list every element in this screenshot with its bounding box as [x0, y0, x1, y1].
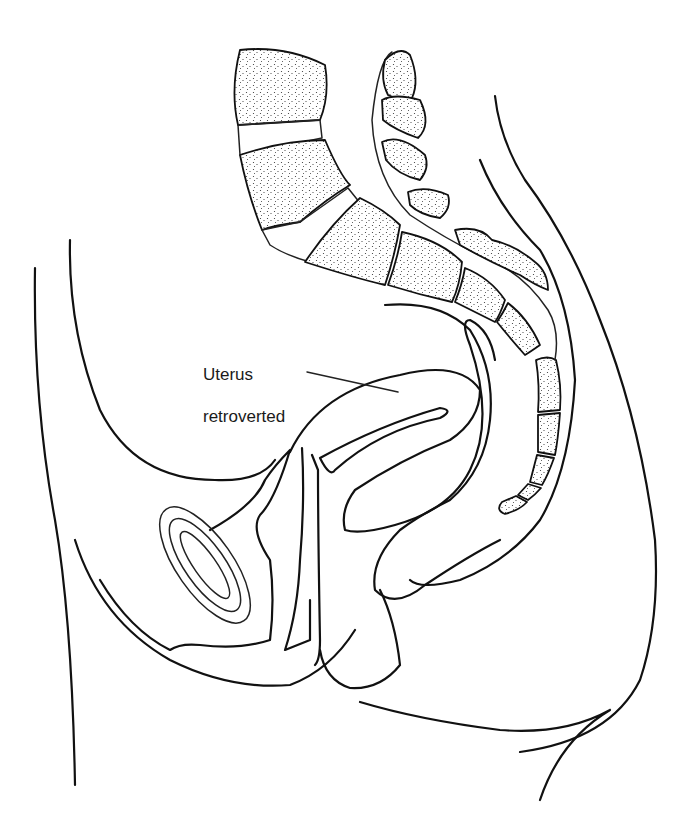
uterus [290, 320, 495, 532]
buttock-outline [360, 702, 610, 800]
vagina-posterior [312, 455, 320, 665]
vagina-anterior [285, 448, 310, 650]
pubic-symphysis [143, 493, 267, 637]
anterior-body-outline [35, 268, 75, 785]
posterior-body-outline [495, 96, 656, 752]
pelvis-sagittal-diagram [0, 0, 699, 826]
anal-canal [320, 590, 400, 688]
bladder [100, 450, 290, 650]
uterus-label-line1: Uterus [203, 365, 253, 384]
posterior-column [372, 51, 556, 360]
uterus-label-line2: retroverted [203, 407, 285, 426]
uterine-cavity [320, 408, 448, 472]
perineum-outline [75, 540, 355, 686]
rectum-outer [374, 304, 500, 599]
uterus-label: Uterus retroverted [203, 343, 285, 427]
